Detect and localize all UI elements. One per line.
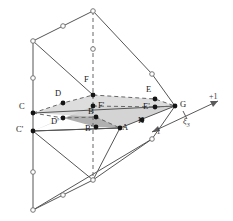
node-open-left-low [31, 170, 36, 175]
node-open-bot-left [31, 208, 36, 213]
node-label-A: A [122, 123, 128, 132]
node-label-G: G [180, 100, 186, 109]
axis-label-minus-one: −1 [152, 128, 161, 136]
node-open-right-upper [150, 72, 155, 77]
node-E [153, 97, 158, 102]
node-label-H: H [138, 116, 144, 125]
node-D [61, 101, 66, 106]
node-G [173, 104, 178, 109]
node-F [91, 93, 96, 98]
node-label-F: F [84, 75, 89, 84]
figure-canvas: A B B' C C' D D' E E' F F' G H −1 +1 ξ3 [0, 0, 233, 221]
node-label-C: C [19, 102, 25, 111]
node-C-prime [31, 129, 36, 134]
node-label-B-prime: B' [85, 124, 92, 133]
node-open-bot-apex [91, 178, 96, 183]
node-open-top-mid [61, 24, 66, 29]
node-label-B: B [88, 107, 94, 116]
node-label-D-prime: D' [51, 117, 59, 126]
node-open-left-mid [31, 76, 36, 81]
node-B-prime [94, 125, 99, 130]
node-E-prime [153, 105, 158, 110]
node-open-top-left [31, 39, 36, 44]
node-D-prime [61, 116, 66, 121]
diagram-svg [0, 0, 233, 221]
node-open-mid-dash [91, 47, 96, 52]
node-label-D: D [55, 89, 61, 98]
node-open-right-lower [150, 137, 155, 142]
node-label-F-prime: F' [98, 101, 104, 110]
node-open-top-apex [91, 9, 96, 14]
node-label-E-prime: E' [143, 102, 150, 111]
node-label-C-prime: C' [16, 125, 23, 134]
node-open-bot-mid [61, 193, 66, 198]
node-B [94, 115, 99, 120]
axis-label-plus-one: +1 [209, 93, 218, 101]
node-C [31, 111, 36, 116]
node-label-E: E [146, 85, 151, 94]
axis-symbol-xi3: ξ3 [183, 117, 190, 128]
